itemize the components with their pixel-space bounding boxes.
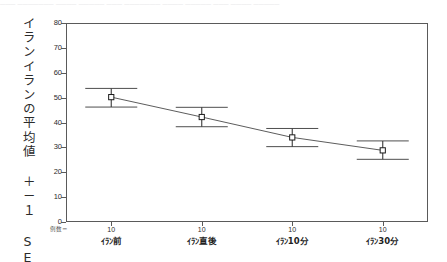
x-axis-category-label: ｲﾗﾝ前 — [66, 236, 156, 247]
x-axis-n-value: 10 — [363, 226, 403, 234]
error-bar-group — [85, 88, 409, 159]
y-axis-tick-label: 60 — [40, 69, 62, 77]
x-axis-category-label: ｲﾗﾝ直後 — [157, 236, 247, 247]
y-axis-tick-label: 10 — [40, 193, 62, 201]
chart-figure: ─── ─────── ──── ───── ─── ─────── ──── … — [0, 0, 447, 262]
data-point-marker-group — [109, 95, 386, 153]
data-point-marker — [290, 135, 295, 140]
y-axis-tick-label: 70 — [40, 44, 62, 52]
scan-edge-artifact-text: ─── ─────── ──── ───── ─── ─────── ──── … — [0, 0, 447, 9]
data-point-marker — [199, 114, 204, 119]
x-axis-category-label: ｲﾗﾝ10分 — [247, 236, 337, 247]
x-axis-n-value: 10 — [91, 226, 131, 234]
y-axis-tick-label: 20 — [40, 168, 62, 176]
y-axis-tick-label: 50 — [40, 94, 62, 102]
x-axis-n-value: 10 — [272, 226, 312, 234]
series-line — [111, 97, 383, 150]
n-caption-label: 例数＝ — [50, 226, 80, 233]
x-axis-n-value: 10 — [182, 226, 222, 234]
y-axis-tick-label: 80 — [40, 19, 62, 27]
series-line-path — [111, 97, 383, 150]
y-axis-tick-label: 30 — [40, 143, 62, 151]
plot-series-layer — [66, 23, 428, 222]
data-point-marker — [109, 95, 114, 100]
data-point-marker — [380, 148, 385, 153]
y-axis-title: イランイランの平均値 ＋－１ SE — [9, 42, 35, 242]
x-axis-category-label: ｲﾗﾝ30分 — [338, 236, 428, 247]
y-axis-tick-label: 40 — [40, 119, 62, 127]
